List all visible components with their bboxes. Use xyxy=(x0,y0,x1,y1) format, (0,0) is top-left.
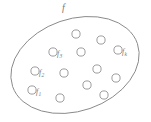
set-boundary-ellipse xyxy=(0,0,151,122)
element-label-subscript-f1: 1 xyxy=(38,91,41,97)
element-label-f3: f3 xyxy=(57,50,62,58)
element-label-f2: f2 xyxy=(39,69,44,77)
set-diagram: f f1f2f3fk xyxy=(0,0,151,122)
diagram-canvas xyxy=(0,0,151,122)
element-circle-unlabeled-u4 xyxy=(60,69,68,77)
element-label-subscript-f3: 3 xyxy=(59,53,62,59)
element-circle-unlabeled-u2 xyxy=(97,36,105,44)
element-circle-unlabeled-u8 xyxy=(56,94,64,102)
element-label-f1: f1 xyxy=(36,88,41,96)
element-circle-unlabeled-u5 xyxy=(93,65,101,73)
element-circle-unlabeled-u6 xyxy=(112,74,120,82)
element-circle-unlabeled-u7 xyxy=(83,81,91,89)
set-label-f: f xyxy=(62,3,65,13)
element-label-fk: fk xyxy=(122,48,127,56)
element-label-subscript-fk: k xyxy=(124,51,126,57)
element-circle-f1 xyxy=(28,86,36,94)
element-circle-unlabeled-u1 xyxy=(72,30,80,38)
element-label-subscript-f2: 2 xyxy=(41,72,44,78)
element-circle-fk xyxy=(114,46,122,54)
element-circle-f2 xyxy=(31,67,39,75)
element-circle-unlabeled-u3 xyxy=(77,48,85,56)
element-circle-f3 xyxy=(49,48,57,56)
element-circle-unlabeled-u9 xyxy=(100,91,108,99)
